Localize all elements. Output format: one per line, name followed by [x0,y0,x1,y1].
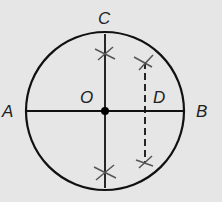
label-d: D [153,88,165,107]
label-c: C [98,9,111,28]
geometry-diagram: C A B O D [0,0,222,202]
label-a: A [1,102,13,121]
label-b: B [196,102,207,121]
construction-mark-top-right [134,55,153,70]
center-point [101,107,109,115]
construction-mark-bottom-right [136,156,153,168]
label-o: O [80,88,93,107]
